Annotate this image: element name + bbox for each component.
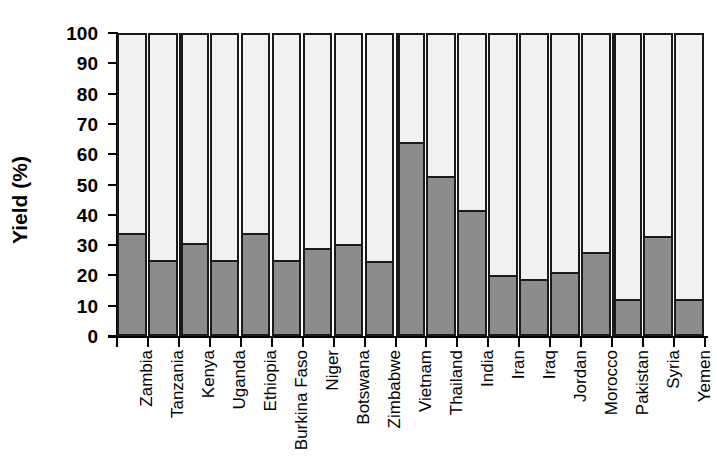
y-axis-tick-label: 0 xyxy=(52,327,98,346)
bar-lower-segment xyxy=(212,260,238,334)
x-axis-tick xyxy=(580,338,582,347)
x-axis-tick-label: Syria xyxy=(665,350,682,389)
y-axis-tick-label: 90 xyxy=(52,54,98,73)
x-axis-tick xyxy=(642,338,644,347)
bar xyxy=(179,33,209,336)
x-axis-tick xyxy=(178,338,180,347)
y-axis-tick-label: 70 xyxy=(52,114,98,133)
y-axis-tick xyxy=(108,214,116,216)
y-axis-tick-label: 50 xyxy=(52,175,98,194)
bar-lower-segment xyxy=(274,260,300,334)
bar xyxy=(612,33,642,336)
x-axis-tick xyxy=(487,338,489,347)
bar-lower-segment xyxy=(428,176,454,334)
bar-lower-segment xyxy=(336,244,362,334)
x-axis-tick xyxy=(116,338,118,347)
bar xyxy=(334,33,364,336)
bar xyxy=(550,33,580,336)
x-axis-tick xyxy=(549,338,551,347)
y-axis-tick-label: 30 xyxy=(52,236,98,255)
bar xyxy=(519,33,549,336)
bar-lower-segment xyxy=(367,261,393,334)
x-axis-tick xyxy=(456,338,458,347)
x-axis-tick xyxy=(395,338,397,347)
x-axis-tick-label: Kenya xyxy=(200,350,217,398)
bar-lower-segment xyxy=(490,275,516,334)
bar-lower-segment xyxy=(150,260,176,334)
x-axis-tick-label: Uganda xyxy=(231,350,248,410)
x-axis-tick-label: Morocco xyxy=(603,350,620,415)
y-axis-tick-label: 80 xyxy=(52,84,98,103)
x-axis-tick-label: Zimbabwe xyxy=(386,350,403,428)
y-axis-tick xyxy=(108,123,116,125)
x-axis-tick xyxy=(518,338,520,347)
y-axis-tick xyxy=(108,32,116,34)
x-axis-tick-label: Vietnam xyxy=(417,350,434,412)
x-axis-tick-label: Iran xyxy=(510,350,527,379)
y-axis-tick xyxy=(108,305,116,307)
y-axis-title: Yield (%) xyxy=(8,90,32,310)
bar-lower-segment xyxy=(305,248,331,334)
x-axis-tick-label: Zambia xyxy=(138,350,155,407)
bar-lower-segment xyxy=(521,279,547,334)
y-axis-tick xyxy=(108,62,116,64)
x-axis-tick-label: Tanzania xyxy=(169,350,186,418)
y-axis-tick xyxy=(108,274,116,276)
x-axis-tick-label: Ethiopia xyxy=(262,350,279,411)
x-axis-tick-label: Yemen xyxy=(696,350,713,402)
y-axis-tick-label: 20 xyxy=(52,266,98,285)
x-axis-tick-label: Jordan xyxy=(572,350,589,402)
x-axis-tick-label: Botswana xyxy=(355,350,372,425)
x-axis-tick xyxy=(302,338,304,347)
y-axis-tick xyxy=(108,184,116,186)
bar-lower-segment xyxy=(243,233,269,335)
bar xyxy=(148,33,178,336)
y-axis-tick xyxy=(108,93,116,95)
bar-lower-segment xyxy=(583,252,609,334)
x-axis-tick xyxy=(364,338,366,347)
y-axis-tick xyxy=(108,153,116,155)
bar xyxy=(303,33,333,336)
bar xyxy=(272,33,302,336)
bar xyxy=(396,33,426,336)
y-axis-tick-label: 60 xyxy=(52,145,98,164)
bar xyxy=(674,33,704,336)
bar-lower-segment xyxy=(676,299,702,334)
bar-lower-segment xyxy=(616,299,640,334)
x-axis-tick-label: Thailand xyxy=(448,350,465,415)
bar xyxy=(241,33,271,336)
x-axis-tick xyxy=(271,338,273,347)
x-axis-tick xyxy=(673,338,675,347)
bar xyxy=(426,33,456,336)
bar xyxy=(457,33,487,336)
x-axis-tick-label: Burkina Faso xyxy=(293,350,310,450)
x-axis-tick xyxy=(209,338,211,347)
bar xyxy=(210,33,240,336)
x-axis-tick xyxy=(147,338,149,347)
x-axis-tick xyxy=(240,338,242,347)
x-axis-tick xyxy=(611,338,613,347)
x-axis-tick xyxy=(425,338,427,347)
y-axis-tick xyxy=(108,335,116,337)
bar xyxy=(365,33,395,336)
bar-lower-segment xyxy=(119,233,145,335)
x-axis-tick xyxy=(704,338,706,347)
bar xyxy=(488,33,518,336)
y-axis-tick-label: 100 xyxy=(52,24,98,43)
bar xyxy=(117,33,147,336)
bar xyxy=(581,33,611,336)
y-axis-tick-label: 10 xyxy=(52,296,98,315)
y-axis-tick-label: 40 xyxy=(52,205,98,224)
bar-lower-segment xyxy=(183,243,207,334)
x-axis-tick-label: India xyxy=(479,350,496,387)
bar-lower-segment xyxy=(459,210,485,334)
chart-figure: Yield (%) 0102030405060708090100 ZambiaT… xyxy=(0,0,717,476)
x-axis-tick-label: Niger xyxy=(324,350,341,391)
plot-area xyxy=(117,33,705,336)
y-axis-tick xyxy=(108,244,116,246)
bar xyxy=(643,33,673,336)
x-axis-line xyxy=(108,336,708,338)
bar-lower-segment xyxy=(645,236,671,334)
x-axis-tick-label: Pakistan xyxy=(634,350,651,415)
bar-lower-segment xyxy=(400,142,424,334)
